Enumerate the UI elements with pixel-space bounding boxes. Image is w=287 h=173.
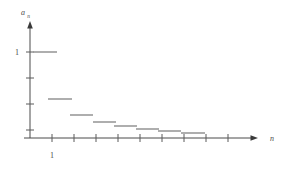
y-axis-label-subscript: n — [27, 13, 30, 19]
x-axis-label: n — [270, 134, 274, 143]
y-tick-label-1: 1 — [15, 48, 19, 57]
y-axis-label: a — [21, 8, 25, 17]
sequence-step-plot: a n n 1 1 — [0, 0, 287, 173]
y-axis-arrow-icon — [27, 21, 33, 29]
step-segments — [33, 52, 205, 133]
x-tick-label-1: 1 — [50, 151, 54, 160]
x-axis-arrow-icon — [251, 135, 259, 141]
